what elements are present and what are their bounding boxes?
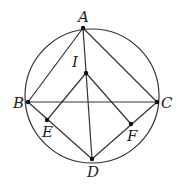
point-a xyxy=(81,26,85,30)
point-f xyxy=(129,122,133,126)
label-d: D xyxy=(86,163,99,181)
point-b xyxy=(26,100,30,104)
segment-if xyxy=(86,73,131,124)
label-b: B xyxy=(12,94,24,112)
segment-ie xyxy=(47,73,86,120)
circumcircle xyxy=(25,29,159,163)
segment-ac xyxy=(83,28,157,102)
point-i xyxy=(84,71,88,75)
label-a: A xyxy=(76,8,89,26)
segment-cd xyxy=(92,102,157,159)
point-e xyxy=(45,118,49,122)
geometry-diagram: A I B C E F D xyxy=(0,0,182,190)
point-c xyxy=(155,100,159,104)
label-i: I xyxy=(71,53,79,71)
label-e: E xyxy=(41,123,53,141)
segment-bd xyxy=(28,102,92,159)
label-f: F xyxy=(126,127,138,145)
segment-ad xyxy=(83,28,92,159)
label-c: C xyxy=(161,94,173,112)
point-d xyxy=(90,157,94,161)
